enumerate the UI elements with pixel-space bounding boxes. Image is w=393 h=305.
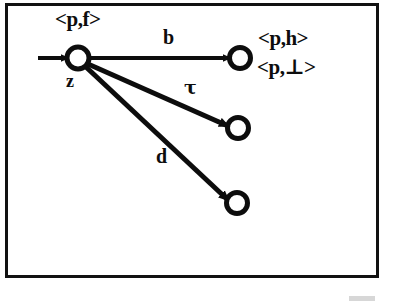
figure-root: <p,f> z b τ d <p,h> <p,⊥> (0, 0, 393, 305)
state-node-source (67, 47, 89, 69)
target-state-secondary-label: <p,⊥> (257, 57, 316, 78)
figure-frame (7, 5, 378, 277)
state-node-b-target (230, 48, 251, 69)
scan-artifact (349, 296, 375, 301)
edge-b-label: b (163, 27, 174, 47)
source-node-name-label: z (66, 72, 74, 90)
state-node-d-target (227, 193, 248, 214)
edge-tau-label: τ (184, 78, 197, 97)
edge-d-label: d (156, 146, 167, 166)
state-node-tau-target (228, 118, 249, 139)
source-state-label: <p,f> (55, 9, 100, 30)
transition-diagram (0, 0, 393, 305)
target-state-primary-label: <p,h> (258, 28, 308, 49)
